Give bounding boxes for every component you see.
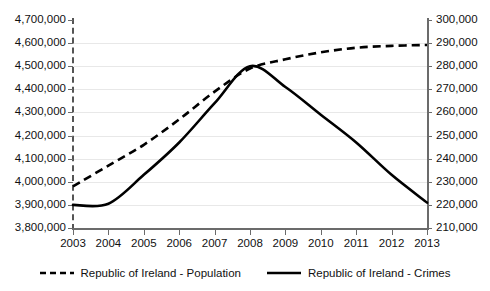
series-layer <box>0 0 490 291</box>
dashed-line-icon <box>40 268 74 278</box>
solid-line-icon <box>267 268 301 278</box>
legend-item-population: Republic of Ireland - Population <box>40 267 241 279</box>
series-line-crimes <box>73 66 427 206</box>
chart-container: 3,800,0003,900,0004,000,0004,100,0004,20… <box>0 0 490 291</box>
legend-item-crimes: Republic of Ireland - Crimes <box>267 267 451 279</box>
legend-label-crimes: Republic of Ireland - Crimes <box>308 267 451 279</box>
legend-label-population: Republic of Ireland - Population <box>81 267 241 279</box>
chart-legend: Republic of Ireland - Population Republi… <box>0 262 490 284</box>
